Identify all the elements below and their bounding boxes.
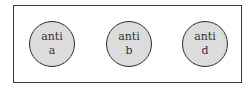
circle-label-line2: a	[49, 44, 56, 58]
circle-anti-b: anti b	[106, 21, 152, 67]
circle-label-line1: anti	[118, 30, 140, 44]
circle-anti-d: anti d	[182, 21, 228, 67]
circle-label-line1: anti	[194, 30, 216, 44]
circle-label-line2: b	[125, 44, 132, 58]
circle-label-line2: d	[201, 44, 208, 58]
circle-anti-a: anti a	[29, 21, 75, 67]
circle-label-line1: anti	[41, 30, 63, 44]
